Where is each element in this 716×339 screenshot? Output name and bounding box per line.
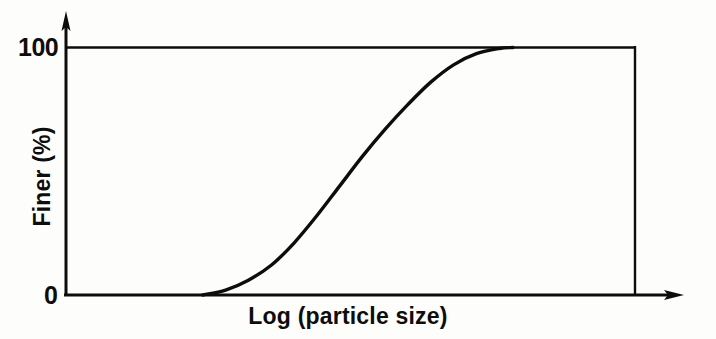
x-axis	[64, 290, 684, 300]
y-axis-tick-label-0: 0	[44, 281, 58, 310]
x-axis-title: Log (particle size)	[228, 303, 468, 330]
y-axis	[62, 11, 71, 296]
particle-size-distribution-figure: 100 0 Finer (%) Log (particle size)	[0, 0, 716, 339]
chart-canvas	[0, 0, 716, 339]
y-axis-tick-label-100: 100	[18, 33, 58, 62]
y-axis-title: Finer (%)	[29, 109, 56, 244]
distribution-curve	[203, 48, 513, 296]
